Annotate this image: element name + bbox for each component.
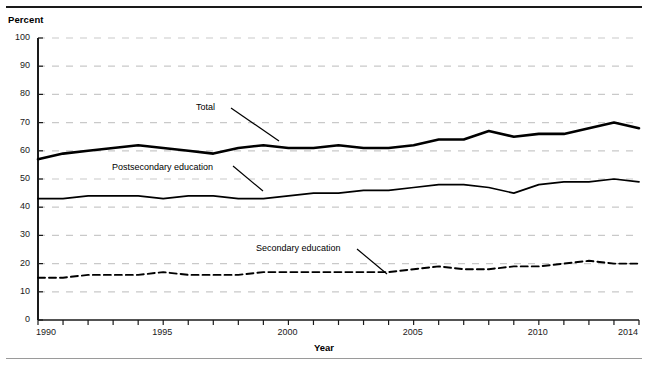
y-tick-label: 40: [4, 201, 30, 211]
y-tick-label: 60: [4, 145, 30, 155]
y-tick-label: 0: [4, 314, 30, 324]
leader-line-secondary: [357, 249, 387, 274]
series-line-total: [38, 123, 639, 160]
leader-line-total: [231, 108, 279, 141]
y-tick-label: 70: [4, 117, 30, 127]
y-tick-label: 100: [4, 32, 30, 42]
y-tick-label: 80: [4, 88, 30, 98]
annotation-secondary: Secondary education: [256, 243, 341, 253]
y-tick-label: 20: [4, 258, 30, 268]
x-tick-label: 2014: [618, 327, 638, 337]
annotation-postsecondary: Postsecondary education: [112, 162, 213, 172]
series-line-postsecondary-education: [38, 179, 639, 199]
y-tick-label: 10: [4, 286, 30, 296]
annotation-total: Total: [196, 102, 215, 112]
y-tick-label: 90: [4, 60, 30, 70]
x-tick-label: 2005: [403, 327, 423, 337]
x-tick-label: 1990: [36, 327, 56, 337]
y-tick-label: 30: [4, 229, 30, 239]
chart-plot-area: [0, 0, 648, 365]
x-tick-label: 2010: [528, 327, 548, 337]
chart-figure: Percent Year 0102030405060708090100 1990…: [0, 0, 648, 365]
y-tick-label: 50: [4, 173, 30, 183]
x-tick-label: 1995: [152, 327, 172, 337]
x-tick-label: 2000: [277, 327, 297, 337]
